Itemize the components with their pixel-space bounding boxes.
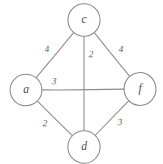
edge-weights-layer: 442323	[43, 44, 124, 128]
edge-weight-a-d: 2	[43, 118, 48, 128]
graph-node-c: c	[68, 4, 100, 37]
node-label-d: d	[81, 140, 87, 152]
edge-weight-d-f: 3	[116, 117, 123, 127]
graph-edge-c-f	[94, 32, 130, 76]
graph-edge-a-c	[36, 32, 74, 77]
graph-node-d: d	[67, 130, 101, 164]
edge-weight-a-c: 4	[44, 44, 50, 54]
node-label-c: c	[81, 13, 86, 25]
edge-weight-c-f: 4	[119, 44, 124, 54]
nodes-layer: cafd	[10, 4, 158, 164]
edge-weight-a-f: 3	[51, 76, 57, 86]
graph-edge-a-f	[42, 89, 124, 90]
node-label-a: a	[23, 83, 29, 95]
graph-figure: cafd 442323	[0, 0, 163, 164]
graph-edge-d-f	[95, 101, 129, 136]
edge-weight-c-d: 2	[88, 49, 93, 59]
graph-canvas: cafd 442323	[0, 0, 163, 164]
edges-layer	[36, 32, 130, 135]
graph-node-a: a	[10, 74, 43, 106]
